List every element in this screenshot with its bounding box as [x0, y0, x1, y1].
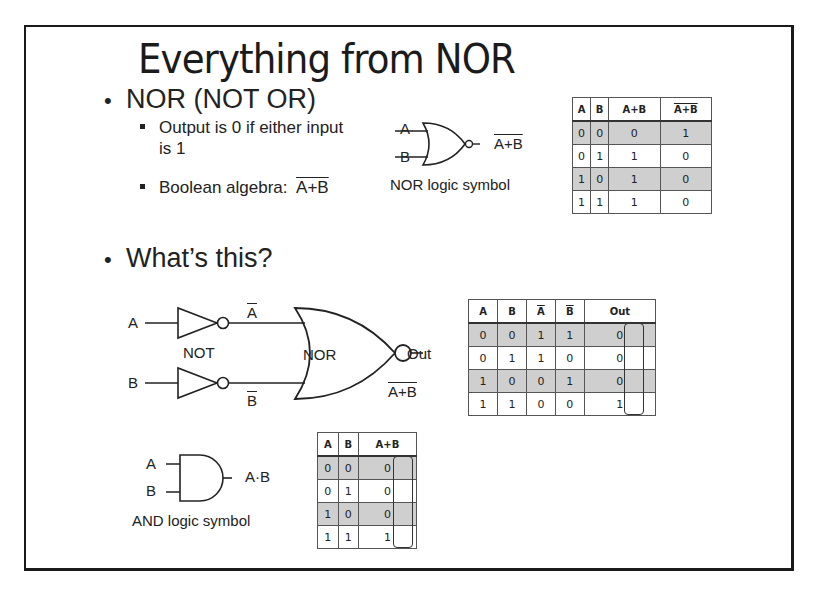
table-row: 1110 — [573, 191, 712, 214]
sub1-line1: Output is 0 if either input — [159, 118, 343, 137]
nor-input-b: B — [400, 148, 410, 165]
header-not-a: A — [526, 300, 555, 324]
sub2-expr: A+B — [296, 178, 329, 197]
circuit-not-label: NOT — [183, 344, 215, 361]
out-column-highlight — [624, 323, 644, 415]
header-a-plus-b: A+B — [358, 433, 416, 457]
header-b: B — [498, 300, 527, 324]
circuit-not-b: B — [247, 392, 257, 409]
bullet-nor: •NOR (NOT OR) — [104, 84, 316, 115]
nor-truth-table: A B A+B A+B 0001 0110 1010 1110 — [572, 97, 712, 214]
header-b: B — [338, 433, 358, 457]
and-output-label: A·B — [245, 468, 270, 485]
header-a: A — [573, 98, 591, 122]
bullet-dot-icon: • — [104, 247, 126, 273]
nor-input-a: A — [400, 120, 410, 137]
circuit-input-b: B — [128, 374, 138, 391]
circuit-output-label: Out — [407, 345, 431, 362]
table-row: 0001 — [573, 121, 712, 145]
result-column-highlight — [393, 456, 413, 548]
nor-caption: NOR logic symbol — [390, 176, 510, 193]
circuit-nor-label: NOR — [303, 346, 336, 363]
header-a: A — [318, 433, 339, 457]
circuit-not-a: A — [247, 304, 257, 321]
sub1-line2: is 1 — [159, 139, 185, 158]
table-row: 0110 — [573, 145, 712, 168]
table-row: 1010 — [573, 168, 712, 191]
header-out: Out — [584, 300, 655, 324]
circuit-input-a: A — [128, 314, 138, 331]
header-not-b: B — [555, 300, 584, 324]
and-caption: AND logic symbol — [132, 512, 250, 529]
header-a-or-b: A+B — [609, 98, 660, 122]
sub2-prefix: Boolean algebra: — [159, 178, 288, 197]
and-input-b: B — [146, 482, 156, 499]
bullet-whats-text: What’s this? — [126, 243, 273, 273]
header-a: A — [469, 300, 498, 324]
and-input-a: A — [146, 455, 156, 472]
slide-title: Everything from NOR — [138, 36, 515, 82]
header-b: B — [591, 98, 609, 122]
bullet-whats-this: •What’s this? — [104, 243, 273, 274]
bullet-nor-text: NOR (NOT OR) — [126, 84, 316, 114]
square-bullet-icon — [140, 184, 145, 189]
circuit-output-expr: A+B — [388, 383, 417, 400]
square-bullet-icon — [140, 124, 145, 129]
nor-output-label: A+B — [494, 135, 523, 152]
bullet-dot-icon: • — [104, 88, 126, 114]
header-a-nor-b: A+B — [660, 98, 711, 122]
